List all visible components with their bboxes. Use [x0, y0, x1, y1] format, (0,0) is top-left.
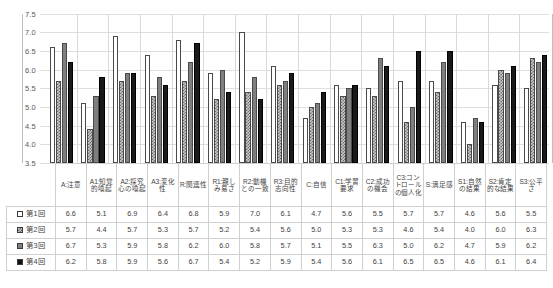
- column-header: R:関連性: [178, 164, 209, 207]
- bar: [252, 77, 257, 163]
- data-table-wrapper: A:注意A1:知覚的喚起A2:探究心の喚起A3:変化性R:関連性R1:親しみ易さ…: [6, 163, 547, 271]
- table-cell: 5.9: [270, 255, 301, 271]
- table-cell: 5.8: [240, 239, 271, 255]
- bar: [145, 55, 150, 163]
- bar: [239, 32, 244, 163]
- bar: [93, 96, 98, 163]
- table-cell: 5.9: [117, 255, 148, 271]
- bar: [505, 73, 510, 163]
- bar: [182, 81, 187, 163]
- table-cell: 5.4: [240, 223, 271, 239]
- bar: [50, 47, 55, 163]
- bar: [277, 85, 282, 163]
- table-row: 第4回6.25.85.95.66.75.45.25.95.45.66.16.56…: [7, 255, 547, 271]
- bar: [283, 81, 288, 163]
- column-header: C2:成功の機会: [362, 164, 393, 207]
- column-header: C3:コントロールの個人化: [393, 164, 424, 207]
- table-cell: 5.3: [86, 239, 117, 255]
- table-cell: 6.4: [516, 255, 547, 271]
- table-cell: 6.7: [178, 255, 209, 271]
- table-cell: 6.5: [424, 255, 455, 271]
- bar-group: [488, 14, 520, 164]
- table-corner-cell: [7, 164, 56, 207]
- bar: [378, 58, 383, 163]
- column-header: A3:変化性: [148, 164, 179, 207]
- bar: [81, 103, 86, 163]
- table-cell: 4.6: [393, 223, 424, 239]
- table-cell: 4.7: [454, 239, 485, 255]
- bar: [384, 66, 389, 163]
- legend-swatch-icon: [17, 243, 23, 249]
- bar: [429, 81, 434, 163]
- legend-swatch-icon: [17, 227, 23, 233]
- bar: [245, 92, 250, 163]
- table-cell: 6.2: [56, 255, 87, 271]
- bar: [157, 77, 162, 163]
- table-cell: 5.8: [86, 255, 117, 271]
- bar: [524, 88, 529, 163]
- table-cell: 5.4: [209, 255, 240, 271]
- table-cell: 4.6: [454, 255, 485, 271]
- table-row: 第1回6.65.16.96.46.85.97.06.14.75.65.55.75…: [7, 207, 547, 223]
- legend-entry: 第3回: [7, 239, 56, 255]
- bar: [542, 55, 547, 163]
- table-cell: 5.4: [301, 255, 332, 271]
- plot-frame: [22, 14, 553, 164]
- bar: [435, 92, 440, 163]
- bar: [214, 99, 219, 163]
- table-cell: 4.4: [86, 223, 117, 239]
- table-cell: 6.2: [516, 239, 547, 255]
- bar: [346, 88, 351, 163]
- bar-groups: [46, 14, 551, 164]
- table-cell: 6.1: [362, 255, 393, 271]
- bar: [176, 40, 181, 163]
- bar: [87, 129, 92, 163]
- bar: [56, 81, 61, 163]
- bar: [226, 92, 231, 163]
- table-cell: 5.1: [301, 239, 332, 255]
- table-header-row: A:注意A1:知覚的喚起A2:探究心の喚起A3:変化性R:関連性R1:親しみ易さ…: [7, 164, 547, 207]
- bar: [340, 96, 345, 163]
- table-cell: 5.6: [332, 207, 363, 223]
- column-header: A:注意: [56, 164, 87, 207]
- bar: [220, 70, 225, 163]
- column-header: S:満足感: [424, 164, 455, 207]
- bar: [194, 43, 199, 163]
- table-cell: 5.2: [240, 255, 271, 271]
- table-cell: 5.7: [393, 207, 424, 223]
- legend-entry: 第1回: [7, 207, 56, 223]
- table-cell: 5.5: [362, 207, 393, 223]
- table-row: 第3回6.75.35.95.86.26.05.85.75.15.56.35.06…: [7, 239, 547, 255]
- table-cell: 4.6: [454, 207, 485, 223]
- bar-group: [266, 14, 298, 164]
- bar: [479, 122, 484, 163]
- bar: [404, 122, 409, 163]
- table-cell: 5.7: [178, 223, 209, 239]
- bar: [131, 73, 136, 163]
- table-row: 第2回5.74.45.75.35.75.25.45.65.05.35.34.65…: [7, 223, 547, 239]
- table-cell: 6.2: [424, 239, 455, 255]
- table-cell: 5.7: [270, 239, 301, 255]
- bar: [125, 73, 130, 163]
- bar: [398, 81, 403, 163]
- bar: [467, 144, 472, 163]
- bar: [334, 85, 339, 163]
- bar: [163, 85, 168, 163]
- table-cell: 5.6: [148, 255, 179, 271]
- column-header: A1:知覚的喚起: [86, 164, 117, 207]
- bar-group: [77, 14, 109, 164]
- column-header: S1:自然の結果: [454, 164, 485, 207]
- bar-group: [235, 14, 267, 164]
- table-cell: 6.9: [117, 207, 148, 223]
- bar: [119, 81, 124, 163]
- table-cell: 5.6: [332, 255, 363, 271]
- bar-group: [361, 14, 393, 164]
- table-cell: 5.4: [424, 223, 455, 239]
- bar: [151, 96, 156, 163]
- bar: [366, 88, 371, 163]
- legend-swatch-icon: [17, 211, 23, 217]
- bar-group: [298, 14, 330, 164]
- table-cell: 5.9: [209, 207, 240, 223]
- bar-group: [108, 14, 140, 164]
- table-cell: 6.5: [393, 255, 424, 271]
